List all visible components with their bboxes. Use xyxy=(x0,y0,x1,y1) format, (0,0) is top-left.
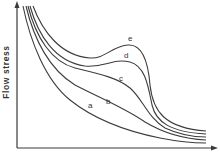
y-axis-arrow-icon xyxy=(15,1,20,8)
curve-c xyxy=(28,6,206,137)
curve-label-c: c xyxy=(119,74,123,83)
y-axis-label: Flow stress xyxy=(1,45,11,98)
flow-stress-diagram: abcde xyxy=(0,0,220,157)
curve-label-d: d xyxy=(124,51,128,60)
curve-label-e: e xyxy=(128,34,133,43)
curve-b xyxy=(26,6,206,140)
curve-e xyxy=(33,6,206,131)
curve-a xyxy=(23,6,206,143)
x-axis-arrow-icon xyxy=(211,146,218,151)
curve-label-b: b xyxy=(106,97,111,106)
curve-label-a: a xyxy=(88,101,93,110)
curves: abcde xyxy=(23,6,206,143)
